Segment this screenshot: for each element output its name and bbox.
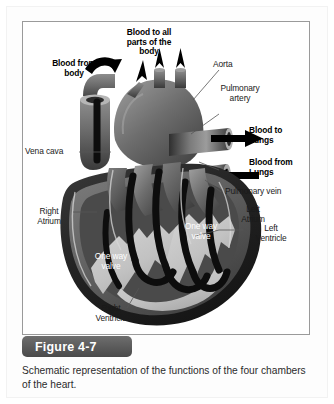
label-one-way-valve-lower: One way valve [85,252,137,271]
label-right-atrium: Right Atrium [27,207,71,226]
label-vena-cava: Vena cava [25,147,81,157]
label-aorta: Aorta [213,60,259,70]
label-pulmonary-vein: Pulmonary vein [225,187,303,197]
label-left-ventricle: Left Ventricle [245,224,297,243]
figure-caption: Schematic representation of the function… [22,364,314,392]
label-blood-to-lungs: Blood to Lungs [249,126,307,145]
label-left-atrium: Left Atrium [231,205,275,224]
label-pulmonary-artery: Pulmonary artery [209,84,271,103]
label-one-way-valve-upper: One way valve [175,222,227,241]
label-right-ventricle: Right Ventricle [85,304,137,323]
figure-number-badge: Figure 4-7 [22,336,132,357]
label-blood-from-body: Blood from body [39,59,109,78]
figure-number-text: Figure 4-7 [35,340,97,354]
label-blood-to-all-parts: Blood to all parts of the body [111,28,187,57]
label-blood-from-lungs: Blood from Lungs [249,158,310,177]
figure-image-box: Blood to all parts of the body Aorta Pul… [22,21,310,335]
figure-page: Blood to all parts of the body Aorta Pul… [0,0,334,404]
